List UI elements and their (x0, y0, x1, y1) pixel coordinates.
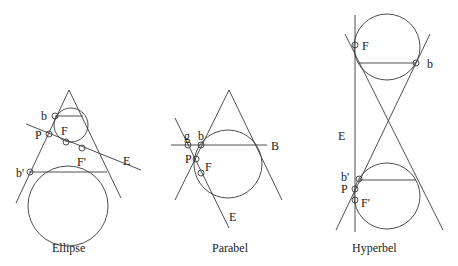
label-P: P (185, 152, 192, 166)
caption-parabel: Parabel (212, 241, 249, 255)
hyperbola-figure: F b E b' P F' Hyperbel (336, 14, 443, 255)
label-F: F (205, 160, 212, 174)
caption-hyperbel: Hyperbel (352, 241, 397, 255)
label-P: P (341, 182, 348, 196)
label-E: E (229, 210, 236, 224)
label-P: P (35, 128, 42, 142)
label-F: F (61, 124, 68, 138)
label-F-prime: F' (77, 155, 86, 169)
label-F-prime: F' (361, 196, 370, 210)
parabola-figure: g b P F B E Parabel (171, 90, 282, 255)
large-sphere (28, 166, 108, 246)
cone-left-edge (16, 90, 69, 203)
label-b: b (41, 109, 47, 123)
label-F: F (362, 39, 369, 53)
conic-sections-diagram: b P F F' E b' Ellipse g b P F B E Parabe… (0, 0, 458, 266)
label-b: b (427, 57, 433, 71)
label-g: g (184, 129, 190, 143)
label-b-prime: b' (16, 166, 24, 180)
label-E: E (123, 154, 130, 168)
caption-ellipse: Ellipse (52, 241, 85, 255)
point-F-prime (79, 145, 85, 151)
label-b: b (198, 129, 204, 143)
label-E: E (338, 129, 345, 143)
label-B: B (271, 139, 279, 153)
ellipse-figure: b P F F' E b' Ellipse (16, 90, 141, 255)
